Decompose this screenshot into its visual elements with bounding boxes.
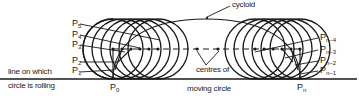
rolling-line-label-2: circle is rolling bbox=[8, 82, 55, 90]
cycloid-pointer bbox=[207, 6, 230, 17]
point-label-p3: P3 bbox=[72, 40, 81, 50]
point-label-pn-1: Pn−1 bbox=[320, 66, 336, 76]
centres-label-line2: moving circle bbox=[187, 85, 231, 93]
point-label-pn-4: Pn−4 bbox=[320, 33, 336, 43]
centres-label-line1: centres of bbox=[196, 66, 229, 74]
centres-pointer bbox=[197, 51, 219, 65]
rolling-line-label-1: line on which bbox=[8, 68, 52, 76]
point-label-p5: P5 bbox=[72, 19, 81, 29]
point-label-pn-3: Pn−3 bbox=[320, 45, 336, 55]
point-label-pn: Pn bbox=[297, 83, 306, 93]
point-label-p0: P0 bbox=[110, 83, 119, 93]
point-label-p1: P1 bbox=[72, 66, 81, 76]
cycloid-label: cycloid bbox=[232, 1, 255, 9]
